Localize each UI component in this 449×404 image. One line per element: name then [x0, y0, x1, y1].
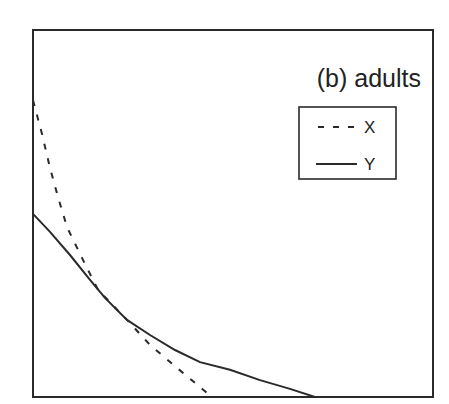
series-x-line	[33, 100, 212, 397]
chart-title: (b) adults	[317, 64, 421, 92]
legend: X Y	[299, 107, 396, 179]
series-y-line	[33, 214, 315, 397]
legend-box	[299, 107, 396, 179]
chart-canvas: (b) adults X Y	[0, 0, 449, 404]
legend-label-x: X	[364, 118, 375, 137]
legend-label-y: Y	[364, 155, 375, 174]
